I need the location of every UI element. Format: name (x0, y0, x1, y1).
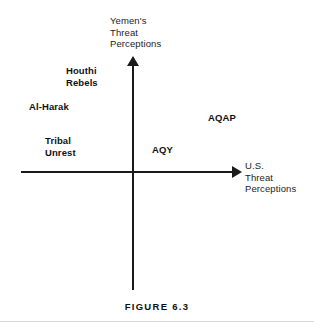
x-axis-title: U.S. Threat Perceptions (245, 160, 296, 195)
label-houthi-rebels: Houthi Rebels (66, 65, 98, 88)
label-al-harak-line-1: Al-Harak (29, 101, 69, 113)
label-aqy: AQY (152, 144, 173, 156)
y-axis-line (132, 64, 134, 290)
x-axis-title-line-1: U.S. (245, 160, 296, 172)
y-axis-title-line-3: Perceptions (110, 38, 161, 50)
y-axis-title-line-1: Yemen's (110, 15, 161, 27)
label-houthi-rebels-line-1: Houthi (66, 65, 98, 77)
y-axis-title: Yemen's Threat Perceptions (110, 15, 161, 50)
x-axis-title-line-3: Perceptions (245, 183, 296, 195)
x-axis-arrowhead-icon (232, 166, 242, 178)
figure-container: Yemen's Threat Perceptions U.S. Threat P… (0, 0, 314, 326)
bottom-divider (0, 321, 314, 322)
label-aqap: AQAP (208, 112, 236, 124)
label-tribal-unrest-line-1: Tribal (45, 135, 76, 147)
y-axis-arrowhead-icon (127, 56, 139, 66)
label-aqy-line-1: AQY (152, 144, 173, 156)
label-tribal-unrest-line-2: Unrest (45, 147, 76, 159)
label-tribal-unrest: Tribal Unrest (45, 135, 76, 158)
label-aqap-line-1: AQAP (208, 112, 236, 124)
label-houthi-rebels-line-2: Rebels (66, 77, 98, 89)
x-axis-line (21, 171, 235, 173)
label-al-harak: Al-Harak (29, 101, 69, 113)
y-axis-title-line-2: Threat (110, 27, 161, 39)
figure-caption: FIGURE 6.3 (0, 301, 314, 312)
x-axis-title-line-2: Threat (245, 172, 296, 184)
